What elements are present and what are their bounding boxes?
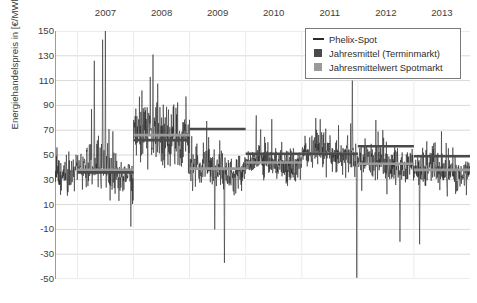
legend-item: Phelix-Spot	[312, 32, 455, 46]
y-axis-tick: 70	[18, 125, 54, 135]
chart-legend: Phelix-SpotJahresmittel (Terminmarkt)Jah…	[305, 28, 461, 79]
x-axis-tick: 2013	[412, 7, 472, 18]
y-axis-tick: -50	[18, 274, 54, 284]
y-axis-tick: 150	[18, 26, 54, 36]
x-axis-tick: 2011	[300, 7, 360, 18]
y-axis-tick: 10	[18, 200, 54, 210]
x-axis-tick: 2009	[188, 7, 248, 18]
y-axis-tick: 50	[18, 150, 54, 160]
chart-container: Energiehandelspreis in [€/MWh] 150130110…	[0, 0, 477, 303]
y-axis-tick: 110	[18, 76, 54, 86]
x-axis-tick: 2008	[132, 7, 192, 18]
legend-swatch	[314, 63, 322, 71]
legend-swatch	[314, 49, 322, 57]
legend-line-icon	[312, 34, 324, 45]
y-axis-tick: 90	[18, 100, 54, 110]
legend-label: Phelix-Spot	[329, 34, 377, 45]
y-axis-tick: -30	[18, 249, 54, 259]
y-axis-tick: 30	[18, 175, 54, 185]
legend-item: Jahresmittel (Terminmarkt)	[312, 46, 455, 60]
x-axis-tick: 2007	[75, 7, 135, 18]
x-axis-tick: 2010	[244, 7, 304, 18]
legend-label: Jahresmittel (Terminmarkt)	[329, 48, 440, 59]
legend-swatch	[313, 38, 324, 40]
x-axis-tick: 2012	[356, 7, 416, 18]
legend-label: Jahresmittelwert Spotmarkt	[329, 62, 443, 73]
y-axis-tick: 130	[18, 51, 54, 61]
legend-square-light-icon	[312, 62, 324, 73]
legend-item: Jahresmittelwert Spotmarkt	[312, 60, 455, 74]
y-axis-tick-labels: 1501301109070503010-10-30-50	[14, 0, 54, 303]
y-axis-tick: -10	[18, 224, 54, 234]
legend-square-dark-icon	[312, 48, 324, 59]
